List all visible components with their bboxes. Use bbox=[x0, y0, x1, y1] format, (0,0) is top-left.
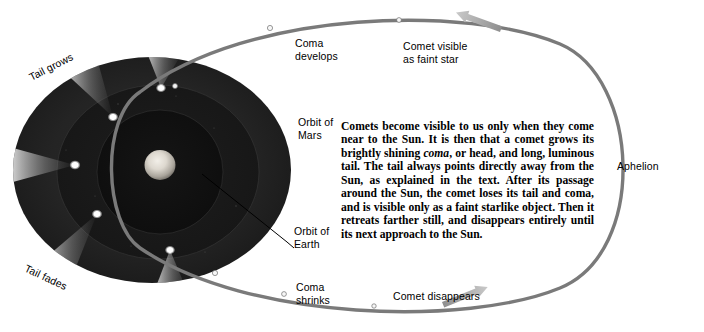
label-orbit-of-mars: Orbit of Mars bbox=[298, 116, 333, 141]
orbit-of-earth-leader-tick bbox=[287, 242, 294, 248]
label-coma-shrinks: Coma shrinks bbox=[296, 281, 330, 306]
label-comet-disappears: Comet disappears bbox=[393, 290, 480, 303]
caption-line-5: Sun, as explained in the text. After its… bbox=[341, 174, 594, 187]
orbit-marker-dot bbox=[372, 304, 376, 308]
label-orbit-of-earth: Orbit of Earth bbox=[294, 225, 329, 250]
caption-line-7: is visible only as a faint starlike obje… bbox=[363, 201, 594, 214]
direction-arrow-top bbox=[454, 7, 503, 35]
orbit-marker-dot bbox=[397, 18, 402, 23]
comet-1-head bbox=[156, 84, 166, 93]
label-coma-develops: Coma develops bbox=[295, 37, 338, 62]
caption-line-1: Comets become visible to us only when th… bbox=[341, 120, 594, 133]
comet-2-head bbox=[108, 112, 119, 121]
orbit-marker-dot bbox=[267, 25, 272, 30]
caption-paragraph: Comets become visible to us only when th… bbox=[341, 120, 594, 241]
caption-line-9: next approach to the Sun. bbox=[356, 228, 483, 241]
comet-3-head bbox=[69, 160, 80, 170]
comet-5-head bbox=[165, 246, 175, 255]
caption-line-4: tail. The tail always points directly aw… bbox=[341, 160, 594, 173]
caption-line-2: near to the Sun. It is then that a comet… bbox=[341, 133, 594, 146]
comet-4-head bbox=[92, 209, 103, 218]
comet-orbit-figure: Tail grows Tail fades Coma develops Coma… bbox=[0, 0, 704, 332]
label-aphelion: Aphelion bbox=[617, 160, 659, 173]
label-comet-visible-as-faint-star: Comet visible as faint star bbox=[403, 40, 467, 65]
caption-line-3b: , or head, and long, luminous bbox=[449, 147, 594, 160]
caption-word-coma: coma bbox=[423, 147, 449, 160]
caption-line-3a: brightly shining bbox=[341, 147, 423, 160]
orbit-marker-dot bbox=[212, 270, 217, 275]
sun bbox=[145, 150, 176, 180]
orbit-marker-dot bbox=[282, 292, 287, 297]
orbit-marker-dot bbox=[173, 84, 178, 89]
